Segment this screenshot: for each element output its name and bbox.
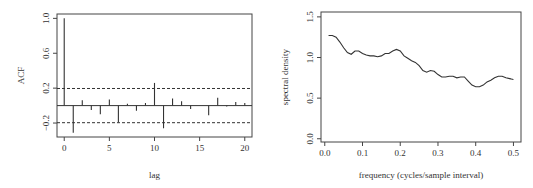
acf-y-tick-label: 0.2 xyxy=(41,83,51,94)
acf-x-tick-label: 5 xyxy=(107,143,112,153)
acf-x-tick-label: 10 xyxy=(150,143,160,153)
spectrum-x-tick-label: 0.5 xyxy=(508,148,520,158)
spectrum-x-tick-label: 0.4 xyxy=(470,148,482,158)
acf-panel: 05101520 −0.20.20.61.0 lag ACF xyxy=(16,12,252,180)
spectrum-plot-frame xyxy=(321,12,521,142)
acf-y-tick-label: 0.6 xyxy=(41,47,51,59)
acf-x-tick-label: 20 xyxy=(240,143,250,153)
spectrum-y-tick-label: 0.0 xyxy=(305,133,315,145)
spectrum-x-tick-label: 0.2 xyxy=(395,148,406,158)
acf-x-tick-label: 15 xyxy=(195,143,205,153)
figure: 05101520 −0.20.20.61.0 lag ACF 0.00.10.2… xyxy=(0,0,533,188)
acf-y-tick-label: 1.0 xyxy=(41,12,51,24)
acf-x-tick-label: 0 xyxy=(62,143,67,153)
acf-plot-frame xyxy=(57,14,252,137)
acf-y-tick-label: −0.2 xyxy=(41,115,51,131)
spectrum-x-tick-label: 0.1 xyxy=(357,148,368,158)
spectrum-y-tick-label: 1.5 xyxy=(305,11,315,23)
acf-x-axis-label: lag xyxy=(149,170,160,180)
spectrum-x-axis-label: frequency (cycles/sample interval) xyxy=(359,170,483,180)
spectrum-panel: 0.00.10.20.30.40.5 0.00.51.01.5 frequenc… xyxy=(280,11,521,180)
spectrum-x-tick-label: 0.3 xyxy=(432,148,444,158)
acf-y-axis-label: ACF xyxy=(16,67,26,85)
spectrum-y-axis-label: spectral density xyxy=(280,48,290,105)
spectrum-y-tick-label: 0.5 xyxy=(305,92,315,104)
spectrum-y-tick-label: 1.0 xyxy=(305,51,315,63)
spectrum-x-tick-label: 0.0 xyxy=(319,148,331,158)
spectral-density-line xyxy=(329,36,514,87)
